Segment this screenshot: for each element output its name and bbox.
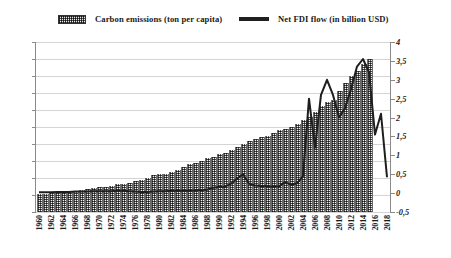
legend-item-net-fdi-flow: Net FDI flow (in billion USD) (239, 14, 389, 24)
x-axis-tick: 1970 (95, 215, 104, 231)
y-axis-right-tickmark (391, 174, 395, 175)
x-axis-tick: 1996 (251, 215, 260, 231)
y-axis-right-tick: 0,5 (396, 170, 426, 179)
x-axis-tick: 1972 (107, 215, 116, 231)
x-axis-tick: 1960 (35, 215, 44, 231)
gridline (36, 212, 390, 213)
y-axis-right-tickmark (391, 99, 395, 100)
legend-label-carbon-emissions: Carbon emissions (ton per capita) (95, 14, 222, 24)
x-axis-tick: 1982 (167, 215, 176, 231)
y-axis-right-tick: 3 (396, 75, 426, 84)
x-axis-tick: 2018 (383, 215, 392, 231)
x-axis-tick: 2002 (287, 215, 296, 231)
y-axis-right-tickmark (391, 193, 395, 194)
y-axis-right-tick: 4 (396, 38, 426, 47)
y-axis-left-tickmark (32, 212, 36, 213)
legend-label-net-fdi-flow: Net FDI flow (in billion USD) (278, 14, 389, 24)
x-axis-tick: 2014 (359, 215, 368, 231)
chart-container: Carbon emissions (ton per capita) Net FD… (0, 0, 451, 258)
x-axis-tick: 1986 (191, 215, 200, 231)
x-axis-tick: 1984 (179, 215, 188, 231)
y-axis-right-tick: 1,5 (396, 132, 426, 141)
y-axis-right-tickmark (391, 155, 395, 156)
y-axis-right-tick: 2 (396, 113, 426, 122)
x-axis-tick: 2016 (371, 215, 380, 231)
y-axis-right-tickmark (391, 136, 395, 137)
y-axis-right-tickmark (391, 118, 395, 119)
x-axis-tick: 1976 (131, 215, 140, 231)
legend-item-carbon-emissions: Carbon emissions (ton per capita) (58, 14, 222, 24)
x-axis-tick: 1978 (143, 215, 152, 231)
fdi-line-path (39, 59, 387, 192)
x-axis-tick: 1964 (59, 215, 68, 231)
chart-legend: Carbon emissions (ton per capita) Net FD… (0, 14, 451, 30)
y-axis-right-tickmark (391, 80, 395, 81)
x-axis-tick: 1994 (239, 215, 248, 231)
x-axis-tick: 1968 (83, 215, 92, 231)
y-axis-right-tick: 1 (396, 151, 426, 160)
y-axis-right-line (390, 42, 391, 213)
x-axis-tick: 1980 (155, 215, 164, 231)
x-axis-tick: 1962 (47, 215, 56, 231)
x-axis-tick: 1988 (203, 215, 212, 231)
y-axis-right-tickmark (391, 42, 395, 43)
y-axis-right-tickmark (391, 61, 395, 62)
x-axis-tick: 1998 (263, 215, 272, 231)
x-axis-tick: 1990 (215, 215, 224, 231)
x-axis-tick: 1974 (119, 215, 128, 231)
line-series-net-fdi-flow (36, 42, 390, 212)
y-axis-right-tick: 0 (396, 189, 426, 198)
bar-swatch-icon (58, 15, 86, 24)
y-axis-right-tick: -0,5 (396, 208, 426, 217)
x-axis-tick: 2004 (299, 215, 308, 231)
x-axis-tick: 1966 (71, 215, 80, 231)
x-axis-tick: 2008 (323, 215, 332, 231)
x-axis-tick: 2012 (347, 215, 356, 231)
line-swatch-icon (239, 17, 269, 21)
x-axis-tick: 2006 (311, 215, 320, 231)
x-axis-tick: 2010 (335, 215, 344, 231)
x-axis-tick: 2000 (275, 215, 284, 231)
y-axis-right-tick: 3,5 (396, 56, 426, 65)
y-axis-right-tick: 2,5 (396, 94, 426, 103)
x-axis-tick: 1992 (227, 215, 236, 231)
y-axis-right-tickmark (391, 212, 395, 213)
